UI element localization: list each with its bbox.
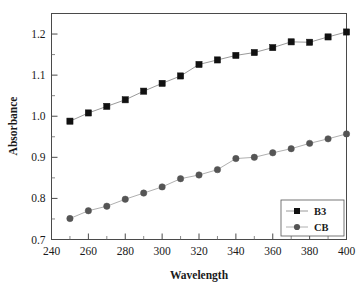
data-point bbox=[141, 88, 147, 94]
chart-legend: B3CB bbox=[281, 200, 344, 236]
data-point bbox=[67, 215, 73, 221]
legend-marker-circle bbox=[294, 224, 300, 230]
data-point bbox=[325, 136, 331, 142]
data-point bbox=[159, 184, 165, 190]
data-point bbox=[270, 45, 276, 51]
x-axis-tick-labels: 240260280300320340360380400 bbox=[43, 245, 356, 257]
data-point bbox=[214, 166, 220, 172]
x-tick-label: 380 bbox=[301, 245, 319, 257]
data-point bbox=[214, 57, 220, 63]
data-point bbox=[104, 203, 110, 209]
data-point bbox=[196, 61, 202, 67]
legend-label: CB bbox=[314, 222, 329, 233]
y-tick-label: 1.1 bbox=[31, 69, 46, 81]
data-point bbox=[251, 49, 257, 55]
x-tick-label: 360 bbox=[264, 245, 282, 257]
data-point bbox=[307, 39, 313, 45]
data-point bbox=[233, 155, 239, 161]
x-axis-title: Wavelength bbox=[170, 269, 229, 282]
data-point bbox=[233, 52, 239, 58]
y-tick-label: 0.8 bbox=[31, 192, 46, 204]
x-tick-label: 240 bbox=[43, 245, 61, 257]
data-point bbox=[251, 154, 257, 160]
legend-marker-square bbox=[294, 208, 300, 214]
y-tick-label: 0.9 bbox=[31, 151, 46, 163]
data-point bbox=[85, 208, 91, 214]
chart-container: 240260280300320340360380400 0.70.80.91.0… bbox=[0, 0, 361, 289]
data-point bbox=[122, 97, 128, 103]
data-point bbox=[122, 196, 128, 202]
y-tick-label: 0.7 bbox=[31, 234, 46, 246]
data-point bbox=[177, 73, 183, 79]
y-axis-title: Absorbance bbox=[7, 97, 19, 156]
data-point bbox=[159, 80, 165, 86]
data-point bbox=[343, 29, 349, 35]
data-point bbox=[104, 103, 110, 109]
x-tick-label: 340 bbox=[227, 245, 245, 257]
legend-label: B3 bbox=[314, 206, 326, 217]
x-tick-label: 260 bbox=[80, 245, 98, 257]
data-point bbox=[343, 131, 349, 137]
data-point bbox=[306, 140, 312, 146]
x-tick-label: 320 bbox=[190, 245, 208, 257]
data-point bbox=[288, 145, 294, 151]
data-point bbox=[177, 175, 183, 181]
data-point bbox=[140, 190, 146, 196]
y-tick-label: 1.2 bbox=[31, 28, 46, 40]
absorbance-vs-wavelength-chart: 240260280300320340360380400 0.70.80.91.0… bbox=[0, 0, 361, 289]
data-point bbox=[196, 172, 202, 178]
y-tick-label: 1.0 bbox=[31, 110, 46, 122]
x-tick-label: 300 bbox=[154, 245, 172, 257]
x-tick-label: 400 bbox=[338, 245, 356, 257]
data-point bbox=[270, 150, 276, 156]
data-point bbox=[288, 39, 294, 45]
x-tick-label: 280 bbox=[117, 245, 135, 257]
data-point bbox=[325, 34, 331, 40]
legend-box bbox=[281, 200, 344, 236]
data-point bbox=[85, 110, 91, 116]
data-point bbox=[67, 118, 73, 124]
